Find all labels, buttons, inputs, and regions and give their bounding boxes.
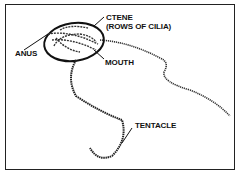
label-mouth: MOUTH <box>105 58 134 67</box>
label-ctene: CTENE <box>106 13 133 22</box>
label-tentacle: TENTACLE <box>135 121 176 130</box>
label-anus: ANUS <box>15 49 37 58</box>
leader-ctene <box>94 17 104 26</box>
tentacle-lower <box>71 60 124 158</box>
tentacle-right <box>100 40 230 116</box>
ctene-rows <box>48 26 98 52</box>
label-ctene-sub: (ROWS OF CILIA) <box>106 22 171 31</box>
